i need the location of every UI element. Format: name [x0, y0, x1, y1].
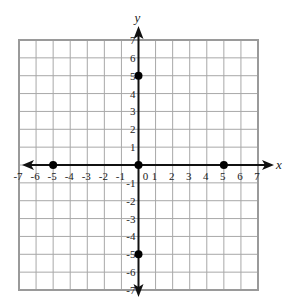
y-tick-label: 6 [130, 52, 136, 64]
x-tick-label: 0 [143, 170, 149, 182]
x-tick-label: -1 [116, 170, 125, 182]
x-tick-label: 6 [237, 170, 243, 182]
x-tick-label: 5 [220, 170, 226, 182]
data-point [220, 161, 228, 169]
y-tick-label: -7 [126, 284, 136, 296]
data-point [49, 161, 57, 169]
data-point [135, 72, 143, 80]
x-tick-label: 7 [254, 170, 260, 182]
x-tick-label: 3 [186, 170, 192, 182]
y-tick-label: 2 [130, 123, 136, 135]
x-tick-label: -2 [99, 170, 108, 182]
x-tick-label: 1 [152, 170, 158, 182]
y-tick-label: -1 [126, 177, 135, 189]
data-point [135, 161, 143, 169]
y-axis-label: y [133, 10, 141, 25]
y-tick-label: 4 [130, 88, 136, 100]
x-tick-label: 4 [203, 170, 209, 182]
x-tick-label: -7 [13, 170, 23, 182]
y-tick-label: 1 [130, 141, 136, 153]
x-tick-label: -6 [30, 170, 40, 182]
x-tick-label: -3 [82, 170, 92, 182]
x-tick-labels: -7-6-5-4-3-2-101234567 [13, 170, 260, 182]
x-tick-label: -4 [65, 170, 75, 182]
x-tick-label: 2 [169, 170, 175, 182]
y-tick-label: -6 [126, 266, 136, 278]
axes [22, 26, 274, 297]
y-tick-label: -2 [126, 195, 135, 207]
y-tick-label: 7 [130, 34, 136, 46]
y-tick-label: -4 [126, 230, 136, 242]
x-tick-label: -5 [48, 170, 58, 182]
data-point [135, 250, 143, 258]
y-tick-label: -3 [126, 213, 136, 225]
y-tick-label: 3 [130, 105, 136, 117]
coordinate-plane: -7-6-5-4-3-2-101234567 -7-6-5-4-3-2-1123… [0, 0, 289, 306]
x-axis-label: x [275, 157, 282, 172]
